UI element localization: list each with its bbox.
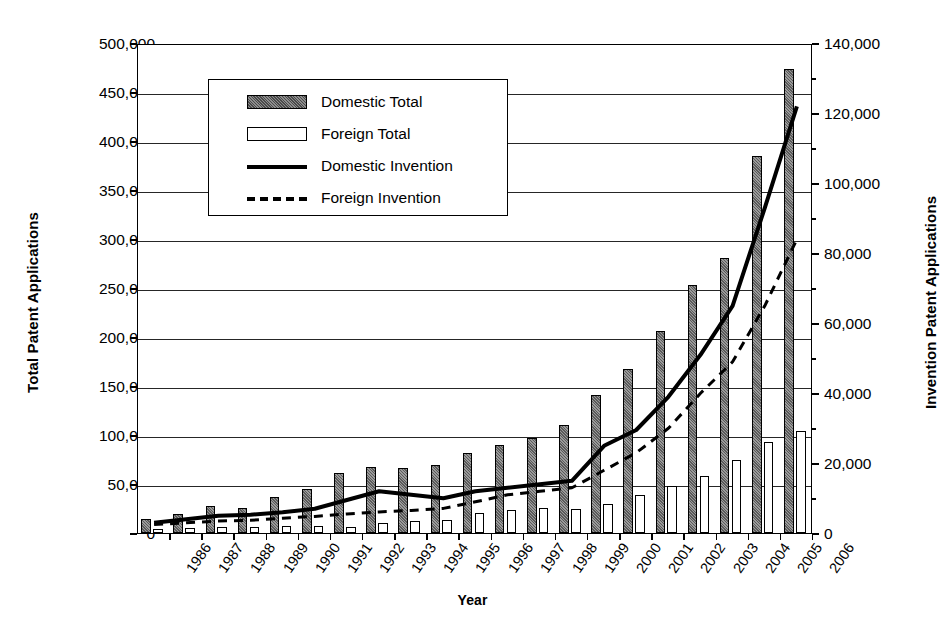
y-axis-right-tick-label: 80,000 — [824, 245, 871, 263]
x-axis-title: Year — [0, 592, 945, 608]
bar-foreign-total — [346, 527, 356, 533]
x-axis-tick — [233, 534, 234, 540]
y-axis-right-tick-label: 0 — [824, 525, 833, 543]
bar-foreign-total — [635, 495, 645, 533]
bar-foreign-total — [250, 527, 260, 533]
x-axis-tick — [491, 534, 492, 540]
x-axis-tick — [716, 534, 717, 540]
x-axis-tick — [780, 534, 781, 540]
x-axis-tick — [748, 534, 749, 540]
bar-foreign-total — [378, 523, 388, 533]
y-axis-left-title: Total Patent Applications — [24, 153, 41, 453]
y-axis-right-title: Invention Patent Applications — [922, 153, 939, 453]
x-axis-tick-label: 2000 — [633, 540, 665, 576]
legend: Domestic TotalForeign TotalDomestic Inve… — [208, 79, 508, 216]
y-axis-right-tick-label: 120,000 — [824, 105, 880, 123]
legend-item-label: Foreign Total — [321, 125, 410, 143]
x-axis-tick — [298, 534, 299, 540]
bar-domestic-total — [141, 519, 151, 533]
gridline — [138, 486, 811, 487]
y-axis-right-tick-label: 20,000 — [824, 455, 871, 473]
y-axis-right-tick-label: 140,000 — [824, 35, 880, 53]
legend-swatch-dash-icon — [247, 197, 307, 201]
y-axis-right-tick — [812, 113, 819, 115]
bar-foreign-total — [475, 513, 485, 533]
bar-domestic-total — [366, 467, 376, 533]
legend-swatch-dom-icon — [247, 95, 307, 109]
x-axis-tick-label: 1989 — [279, 540, 311, 576]
bar-foreign-total — [153, 529, 163, 533]
x-axis-tick-label: 1997 — [536, 540, 568, 576]
bar-domestic-total — [206, 506, 216, 533]
x-axis-tick — [426, 534, 427, 540]
bar-foreign-total — [314, 526, 324, 533]
x-axis-tick-label: 1996 — [504, 540, 536, 576]
y-axis-right-minor-tick — [812, 288, 816, 289]
legend-item-label: Foreign Invention — [321, 189, 441, 207]
y-axis-right-minor-tick — [812, 218, 816, 219]
y-axis-right-minor-tick — [812, 148, 816, 149]
x-axis-tick — [587, 534, 588, 540]
bar-domestic-total — [784, 69, 794, 533]
bar-domestic-total — [334, 473, 344, 533]
bar-domestic-total — [591, 395, 601, 533]
bar-foreign-total — [282, 526, 292, 533]
x-axis-tick — [812, 534, 813, 540]
legend-item-label: Domestic Total — [321, 93, 422, 111]
legend-swatch-forn-icon — [247, 127, 307, 141]
x-axis-tick — [683, 534, 684, 540]
x-axis-tick-label: 1987 — [215, 540, 247, 576]
y-axis-right-minor-tick — [812, 358, 816, 359]
bar-domestic-total — [270, 497, 280, 533]
x-axis-tick-label: 1992 — [376, 540, 408, 576]
bar-foreign-total — [507, 510, 517, 533]
x-axis-tick — [362, 534, 363, 540]
x-axis-tick — [555, 534, 556, 540]
x-axis-tick-label: 1993 — [408, 540, 440, 576]
bar-domestic-total — [688, 285, 698, 533]
x-axis-tick-label: 1988 — [247, 540, 279, 576]
x-axis-tick-label: 1998 — [569, 540, 601, 576]
bar-domestic-total — [431, 465, 441, 533]
bar-foreign-total — [442, 520, 452, 533]
x-axis-tick-label: 1986 — [183, 540, 215, 576]
gridline — [138, 437, 811, 438]
x-axis-tick-label: 1994 — [440, 540, 472, 576]
bar-foreign-total — [571, 509, 581, 534]
legend-item-label: Domestic Invention — [321, 157, 453, 175]
bar-domestic-total — [463, 453, 473, 533]
y-axis-right-tick-label: 100,000 — [824, 175, 880, 193]
y-axis-right-minor-tick — [812, 78, 816, 79]
bar-foreign-total — [217, 527, 227, 533]
bar-domestic-total — [398, 468, 408, 533]
y-axis-left-tick — [130, 533, 137, 535]
patent-applications-chart: Total Patent Applications Invention Pate… — [0, 0, 945, 628]
x-axis-tick-label: 1995 — [472, 540, 504, 576]
y-axis-right-minor-tick — [812, 498, 816, 499]
gridline — [138, 339, 811, 340]
bar-foreign-total — [667, 486, 677, 533]
bar-domestic-total — [302, 489, 312, 533]
y-axis-right-tick — [812, 43, 819, 45]
bar-foreign-total — [539, 508, 549, 533]
bar-domestic-total — [752, 156, 762, 533]
y-axis-right-tick — [812, 463, 819, 465]
bar-domestic-total — [623, 369, 633, 533]
x-axis-tick — [651, 534, 652, 540]
x-axis-tick — [458, 534, 459, 540]
x-axis-tick-label: 2003 — [729, 540, 761, 576]
bar-domestic-total — [238, 508, 248, 533]
bar-foreign-total — [732, 460, 742, 534]
bar-domestic-total — [720, 258, 730, 533]
bar-foreign-total — [185, 528, 195, 533]
x-axis-tick — [169, 534, 170, 540]
y-axis-right-tick-label: 40,000 — [824, 385, 871, 403]
y-axis-right-tick — [812, 323, 819, 325]
legend-item: Foreign Invention — [209, 182, 507, 214]
x-axis-tick — [330, 534, 331, 540]
x-axis-tick — [523, 534, 524, 540]
bar-foreign-total — [603, 504, 613, 533]
bar-domestic-total — [656, 331, 666, 533]
bar-foreign-total — [796, 431, 806, 533]
x-axis-tick — [201, 534, 202, 540]
